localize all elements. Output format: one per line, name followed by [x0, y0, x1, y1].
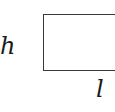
- height-label: h: [0, 34, 15, 58]
- length-label: l: [96, 77, 104, 101]
- rectangle-shape: [43, 14, 115, 71]
